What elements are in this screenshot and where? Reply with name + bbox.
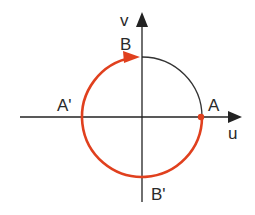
v-axis-arrow-icon bbox=[136, 12, 148, 27]
point-b-prime-label: B' bbox=[151, 186, 166, 203]
point-a-dot bbox=[198, 114, 204, 120]
u-axis-arrow-icon bbox=[228, 111, 242, 123]
point-a-label: A bbox=[208, 97, 219, 114]
u-axis-label: u bbox=[228, 125, 237, 142]
point-a-prime-label: A' bbox=[57, 97, 72, 114]
v-axis-label: v bbox=[120, 12, 129, 29]
point-b-label: B bbox=[120, 36, 131, 53]
circle-arc-black bbox=[142, 57, 202, 117]
